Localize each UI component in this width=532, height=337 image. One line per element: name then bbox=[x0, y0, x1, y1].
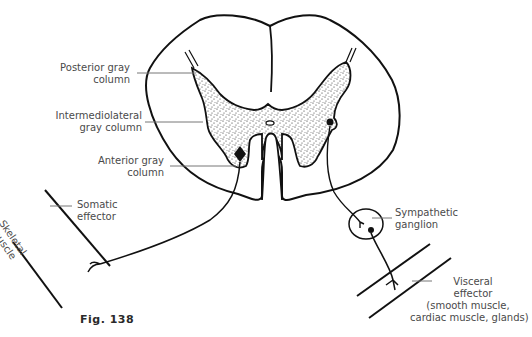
label-visceral-effector: Visceral effector (smooth muscle, cardia… bbox=[410, 276, 526, 324]
ganglion-neuron bbox=[368, 227, 374, 233]
dorsal-root-left bbox=[185, 50, 198, 68]
label-posterior-gray-column: Posterior gray column bbox=[30, 62, 130, 86]
central-canal bbox=[266, 121, 274, 125]
posterior-median-septum bbox=[270, 26, 272, 92]
label-intermediolateral-gray-column: Intermediolateral gray column bbox=[30, 110, 142, 134]
label-somatic-effector: Somatic effector bbox=[77, 199, 118, 223]
label-anterior-gray-column: Anterior gray column bbox=[60, 155, 164, 179]
preganglionic-synapse bbox=[360, 222, 364, 228]
intermediolateral-neuron bbox=[327, 119, 334, 126]
label-sympathetic-ganglion: Sympathetic ganglion bbox=[395, 207, 458, 231]
preganglionic-axon bbox=[327, 126, 360, 222]
dorsal-root-right bbox=[346, 48, 356, 62]
sympathetic-ganglion bbox=[349, 209, 383, 239]
figure-138: Posterior gray column Intermediolateral … bbox=[0, 0, 532, 337]
motor-end-plate bbox=[88, 263, 100, 273]
figure-caption: Fig. 138 bbox=[80, 313, 134, 326]
postganglionic-ending bbox=[386, 280, 398, 290]
